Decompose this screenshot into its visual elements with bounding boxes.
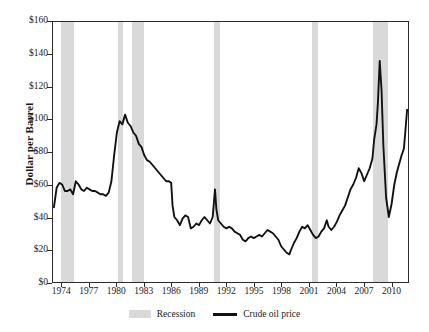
y-axis-tick-labels: $0$20$40$60$80$100$120$140$160 — [0, 0, 48, 332]
x-tick-label: 1989 — [189, 287, 208, 297]
y-tick-label: $140 — [4, 49, 48, 59]
x-tick-label: 1974 — [52, 287, 71, 297]
crude-oil-price-line — [53, 22, 408, 282]
x-tick-label: 2004 — [327, 287, 346, 297]
recession-swatch-icon — [129, 310, 151, 318]
legend-item-recession: Recession — [129, 309, 196, 319]
y-tick-label: $20 — [4, 246, 48, 256]
y-tick-label: $60 — [4, 180, 48, 190]
x-tick-label: 1977 — [79, 287, 98, 297]
x-tick-label: 2007 — [355, 287, 374, 297]
y-tick-label: $120 — [4, 82, 48, 92]
x-tick-label: 1983 — [134, 287, 153, 297]
y-tick-mark — [47, 283, 52, 284]
legend-label-recession: Recession — [157, 309, 196, 319]
chart-legend: Recession Crude oil price — [0, 305, 429, 323]
x-tick-label: 2010 — [382, 287, 401, 297]
y-tick-label: $40 — [4, 213, 48, 223]
y-tick-label: $160 — [4, 16, 48, 26]
line-swatch-icon — [213, 313, 237, 316]
x-tick-label: 1986 — [162, 287, 181, 297]
x-axis-tick-labels: 1974197719801983198619891992199519982001… — [0, 287, 429, 303]
y-tick-label: $80 — [4, 147, 48, 157]
legend-item-crude-oil-price: Crude oil price — [213, 309, 300, 319]
x-tick-label: 1992 — [217, 287, 236, 297]
plot-area — [52, 21, 409, 283]
x-tick-label: 1998 — [272, 287, 291, 297]
legend-label-crude-oil-price: Crude oil price — [243, 309, 300, 319]
crude-oil-price-chart: Dollar per Barrel $0$20$40$60$80$100$120… — [0, 0, 429, 332]
x-tick-label: 2001 — [299, 287, 318, 297]
y-tick-label: $100 — [4, 115, 48, 125]
x-tick-label: 1980 — [107, 287, 126, 297]
x-tick-label: 1995 — [244, 287, 263, 297]
